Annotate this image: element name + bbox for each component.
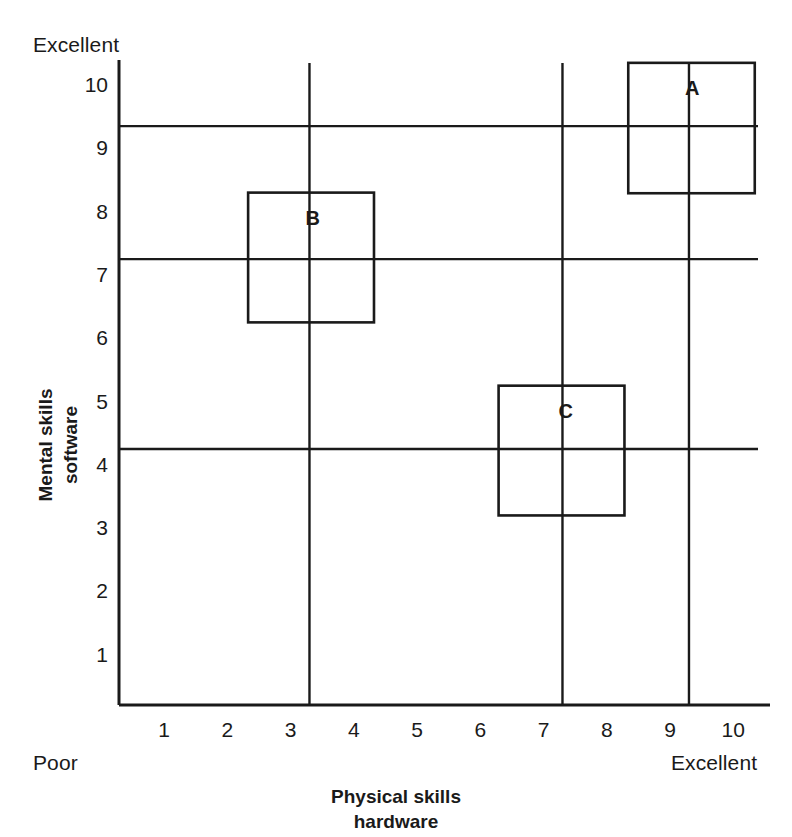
chart-canvas: Excellent Poor Excellent Physical skills… <box>0 0 792 837</box>
data-box-label-a: A <box>685 78 699 98</box>
x-tick-label-10: 10 <box>713 719 753 740</box>
x-tick-label-5: 5 <box>397 719 437 740</box>
data-boxes <box>248 63 755 516</box>
x-tick-label-1: 1 <box>144 719 184 740</box>
y-tick-label-4: 4 <box>68 454 108 475</box>
x-tick-label-7: 7 <box>524 719 564 740</box>
y-tick-label-6: 6 <box>68 327 108 348</box>
y-tick-label-10: 10 <box>68 74 108 95</box>
y-tick-label-8: 8 <box>68 201 108 222</box>
x-tick-label-6: 6 <box>460 719 500 740</box>
crosshair-lines <box>119 63 758 705</box>
x-tick-label-8: 8 <box>587 719 627 740</box>
y-tick-label-9: 9 <box>68 137 108 158</box>
axes <box>119 60 770 705</box>
y-tick-label-2: 2 <box>68 580 108 601</box>
x-tick-label-9: 9 <box>650 719 690 740</box>
y-tick-label-7: 7 <box>68 264 108 285</box>
data-box-label-b: B <box>305 208 319 228</box>
x-tick-label-3: 3 <box>271 719 311 740</box>
x-tick-label-4: 4 <box>334 719 374 740</box>
y-tick-label-3: 3 <box>68 517 108 538</box>
plot-area <box>0 0 792 837</box>
x-tick-label-2: 2 <box>207 719 247 740</box>
y-tick-label-1: 1 <box>68 644 108 665</box>
data-box-label-c: C <box>558 401 572 421</box>
y-tick-label-5: 5 <box>68 391 108 412</box>
